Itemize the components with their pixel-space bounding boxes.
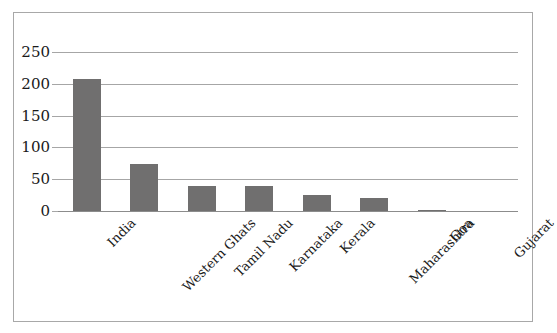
gridline <box>58 179 518 180</box>
y-axis: 050100150200250 <box>0 0 50 333</box>
y-axis-tick <box>52 179 58 180</box>
bar[interactable] <box>130 164 158 211</box>
bar[interactable] <box>360 198 388 211</box>
y-axis-tick-label: 50 <box>0 172 50 187</box>
gridline <box>58 211 518 212</box>
y-axis-tick <box>52 116 58 117</box>
bar[interactable] <box>418 210 446 211</box>
gridline <box>58 147 518 148</box>
gridline <box>58 52 518 53</box>
gridline <box>58 116 518 117</box>
gridline <box>58 84 518 85</box>
bar[interactable] <box>188 186 216 211</box>
bar[interactable] <box>245 186 273 211</box>
y-axis-tick-label: 200 <box>0 76 50 91</box>
y-axis-tick <box>52 84 58 85</box>
y-axis-tick <box>52 147 58 148</box>
bar[interactable] <box>73 79 101 211</box>
plot-area <box>58 52 518 211</box>
y-axis-tick-label: 100 <box>0 140 50 155</box>
y-axis-tick-label: 150 <box>0 108 50 123</box>
y-axis-tick-label: 250 <box>0 45 50 60</box>
y-axis-tick <box>52 211 58 212</box>
bar[interactable] <box>303 195 331 211</box>
y-axis-tick <box>52 52 58 53</box>
y-axis-tick-label: 0 <box>0 204 50 219</box>
